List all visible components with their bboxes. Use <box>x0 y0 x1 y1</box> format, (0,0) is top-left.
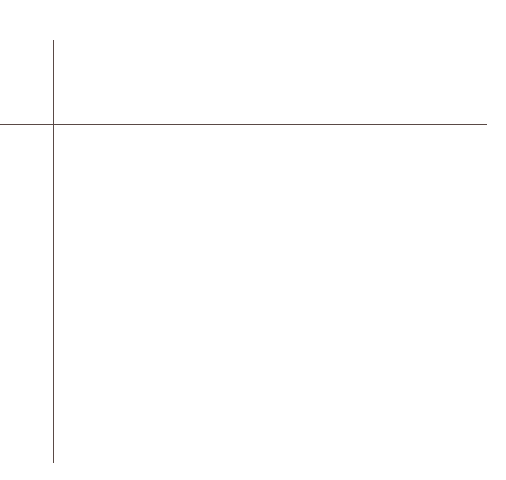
horizontal-line <box>0 124 487 125</box>
vertical-line <box>53 40 54 463</box>
